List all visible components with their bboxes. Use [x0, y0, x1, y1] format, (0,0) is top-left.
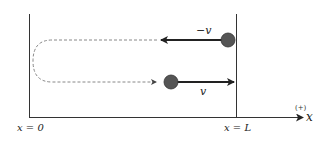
particle-lower	[164, 75, 178, 89]
end-label: x = L	[224, 122, 251, 133]
velocity-label-upper: −v	[196, 24, 212, 37]
positive-direction-label: (+)	[295, 104, 307, 112]
axis-label: x	[306, 110, 313, 124]
particle-upper	[221, 33, 235, 47]
velocity-label-lower: v	[200, 85, 207, 98]
diagram-canvas: −v v (+) x x = 0 x = L	[0, 0, 331, 141]
dashed-return-path	[33, 40, 157, 82]
origin-label: x = 0	[17, 122, 44, 133]
